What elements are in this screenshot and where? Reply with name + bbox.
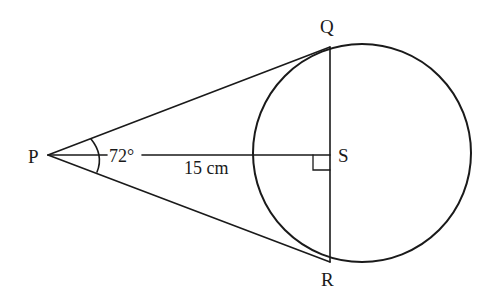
angle-label: 72° (109, 146, 134, 166)
point-label-q: Q (320, 16, 334, 37)
circle (253, 44, 471, 262)
point-label-r: R (321, 269, 334, 290)
diagram-canvas: P Q R S 72° 15 cm (0, 0, 496, 299)
point-label-s: S (338, 145, 349, 166)
point-label-p: P (28, 146, 39, 167)
tangent-circle-diagram: P Q R S 72° 15 cm (0, 0, 496, 299)
right-angle-marker (313, 155, 330, 170)
length-label: 15 cm (184, 158, 229, 178)
